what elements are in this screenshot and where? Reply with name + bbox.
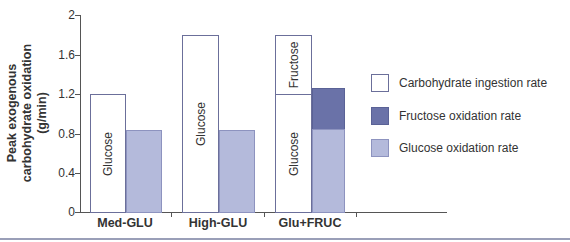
legend-label: Carbohydrate ingestion rate <box>399 76 547 90</box>
y-tick <box>75 55 80 56</box>
legend-swatch <box>371 139 389 157</box>
y-tick-label: 0 <box>68 205 75 219</box>
legend-item-fructose-oxidation: Fructose oxidation rate <box>371 106 521 126</box>
y-tick <box>75 94 80 95</box>
y-tick <box>75 134 80 135</box>
bar-high-glu-glucose-oxidation <box>219 130 255 213</box>
legend-label: Glucose oxidation rate <box>399 141 518 155</box>
bar-glu-fruc-glucose-oxidation <box>312 129 345 213</box>
x-category-label: High-GLU <box>189 216 247 230</box>
y-tick <box>75 15 80 16</box>
y-tick-label: 1.2 <box>58 87 75 101</box>
bar-label: Glucose <box>194 102 208 146</box>
legend-label: Fructose oxidation rate <box>399 109 521 123</box>
legend-item-glucose-oxidation: Glucose oxidation rate <box>371 138 518 158</box>
y-tick-label: 2 <box>68 8 75 22</box>
y-tick-label: 0.8 <box>58 127 75 141</box>
bar-label: Glucose <box>101 131 115 175</box>
bar-med-glu-ingestion: Glucose <box>90 94 126 213</box>
bar-glu-fruc-fructose-oxidation <box>312 88 345 130</box>
y-tick-label: 1.6 <box>58 48 75 62</box>
legend-swatch <box>371 107 389 125</box>
bar-label: Glucose <box>287 131 301 175</box>
x-tick <box>356 212 357 217</box>
y-axis-label: Peak exogenous carbohydrate oxidation (g… <box>5 23 50 203</box>
y-tick <box>75 173 80 174</box>
bar-glu-fruc-fructose-ingestion: Fructose <box>275 35 312 95</box>
bar-glu-fruc-glucose-ingestion: Glucose <box>275 94 312 213</box>
y-tick <box>75 212 80 213</box>
bar-high-glu-ingestion: Glucose <box>182 35 219 213</box>
legend-item-ingestion: Carbohydrate ingestion rate <box>371 73 547 93</box>
x-tick <box>171 212 172 217</box>
x-category-label: Med-GLU <box>97 216 153 230</box>
legend-swatch <box>371 74 389 92</box>
bottom-divider <box>0 238 570 240</box>
x-tick <box>264 212 265 217</box>
bar-label: Fructose <box>287 42 301 89</box>
bar-med-glu-glucose-oxidation <box>126 130 162 213</box>
y-tick-label: 0.4 <box>58 166 75 180</box>
x-category-label: Glu+FRUC <box>279 216 342 230</box>
y-axis-line <box>80 15 81 213</box>
